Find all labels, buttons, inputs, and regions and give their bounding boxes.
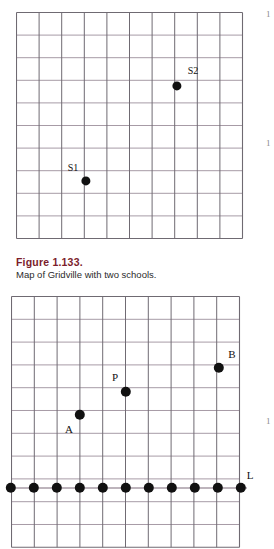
line-grid-lines xyxy=(11,296,241,549)
margin-mark: 1 xyxy=(266,10,271,19)
point-dot-p xyxy=(121,387,131,397)
caption-text: Map of Gridville with two schools. xyxy=(16,269,252,280)
line-l-dot xyxy=(167,483,177,493)
figure-caption: Figure 1.133. Map of Gridville with two … xyxy=(16,256,252,280)
line-l-dot xyxy=(236,483,246,493)
line-l-dot xyxy=(121,483,131,493)
line-l-dot xyxy=(190,483,200,493)
line-l-dot xyxy=(6,483,16,493)
line-l-dot xyxy=(213,483,223,493)
point-label-p: P xyxy=(112,372,118,383)
line-l-dot xyxy=(75,483,85,493)
figure-gridville-map: S1 S2 Figure 1.133. Map of Gridville wit… xyxy=(0,0,274,286)
margin-mark: 1 xyxy=(266,139,271,148)
point-label-s2: S2 xyxy=(188,66,199,76)
line-l-dot xyxy=(52,483,62,493)
point-dot-b xyxy=(214,363,224,373)
line-l-dot xyxy=(144,483,154,493)
point-label-b: B xyxy=(228,349,235,360)
line-label-l: L xyxy=(247,470,254,481)
line-l-dot xyxy=(29,483,39,493)
point-dot-a xyxy=(75,410,85,420)
margin-mark: 1 xyxy=(266,417,271,426)
point-label-a: A xyxy=(65,424,73,435)
gridville-grid-lines xyxy=(16,12,244,240)
caption-title: Figure 1.133. xyxy=(16,256,252,268)
point-label-s1: S1 xyxy=(68,163,79,173)
line-l-dot xyxy=(98,483,108,493)
